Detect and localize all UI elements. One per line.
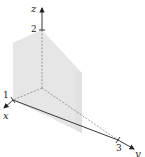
wedge-solid: [13, 30, 82, 133]
x-tick-label: 1: [3, 90, 9, 100]
face-front: [13, 30, 82, 133]
x-axis: [4, 100, 13, 108]
z-tick-label: 2: [31, 24, 37, 34]
x-axis-label: x: [3, 110, 9, 121]
z-axis-label: z: [30, 3, 37, 14]
y-axis-label: y: [134, 148, 141, 157]
y-tick-label: 3: [116, 143, 122, 153]
wedge-diagram: z 2 1 x 3 y: [0, 0, 145, 157]
